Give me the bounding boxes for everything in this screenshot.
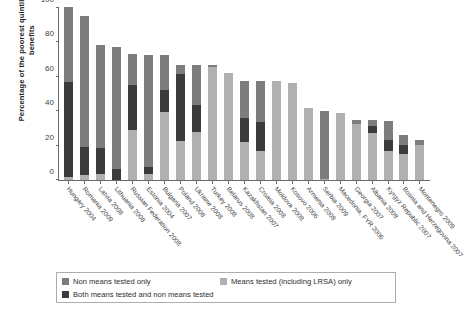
bar[interactable] — [288, 83, 297, 180]
x-label-slot: Latvia 2008 — [92, 185, 108, 270]
bar-slot — [125, 8, 141, 180]
x-tick-slot — [300, 180, 316, 184]
x-tick-mark — [419, 180, 420, 184]
bar[interactable] — [256, 81, 265, 180]
bar[interactable] — [64, 7, 73, 180]
legend-item-non-means-tested: Non means tested only — [62, 277, 151, 286]
legend-swatch — [62, 291, 69, 298]
bar-slot — [332, 8, 348, 180]
bar[interactable] — [336, 113, 345, 180]
bar-slot — [221, 8, 237, 180]
bar-segment — [128, 85, 137, 130]
x-tick-slot — [396, 180, 412, 184]
x-tick-slot — [141, 180, 157, 184]
bar-segment — [176, 74, 185, 141]
x-tick-mark — [276, 180, 277, 184]
bar[interactable] — [384, 121, 393, 180]
x-tick-slot — [157, 180, 173, 184]
x-tick-slot — [221, 180, 237, 184]
bar-segment — [160, 90, 169, 112]
legend-swatch — [220, 278, 227, 285]
bar[interactable] — [272, 81, 281, 180]
x-tick-mark — [148, 180, 149, 184]
bar[interactable] — [240, 81, 249, 180]
x-label-slot: Montenegro 2009 — [412, 185, 428, 270]
x-tick-slot — [316, 180, 332, 184]
x-label-slot: Kyrgyz Republic 2007 — [380, 185, 396, 270]
bar[interactable] — [224, 73, 233, 180]
bar-segment — [399, 145, 408, 155]
x-tick-mark — [403, 180, 404, 184]
bar-slot — [284, 8, 300, 180]
bar-slot — [268, 8, 284, 180]
x-tick-mark — [84, 180, 85, 184]
legend-item-both: Both means tested and non means tested — [62, 290, 214, 299]
x-label-slot: Turkey 2008 — [204, 185, 220, 270]
x-label-slot: Moldova 2008 — [268, 185, 284, 270]
bar-segment — [399, 135, 408, 145]
bar[interactable] — [128, 54, 137, 180]
x-label-slot: Russian Federation 2008 — [124, 185, 140, 270]
x-label-slot: Bulgaria 2007 — [156, 185, 172, 270]
bar-segment — [399, 154, 408, 180]
bar-segment — [368, 126, 377, 134]
bar[interactable] — [208, 65, 217, 180]
bar-segment — [240, 118, 249, 142]
x-label-slot: Hungary 2004 — [60, 185, 76, 270]
bar-segment — [208, 67, 217, 180]
bar-segment — [96, 45, 105, 148]
bar-segment — [384, 121, 393, 140]
bar-segment — [80, 147, 89, 175]
bar-slot — [236, 8, 252, 180]
bar[interactable] — [144, 55, 153, 180]
bar-segment — [384, 151, 393, 180]
bar-slot — [173, 8, 189, 180]
bar-segment — [256, 151, 265, 180]
x-label-slot: Georgia 2007 — [348, 185, 364, 270]
bar-segment — [336, 113, 345, 180]
bar[interactable] — [304, 108, 313, 180]
bar[interactable] — [399, 135, 408, 180]
x-tick-slot — [125, 180, 141, 184]
x-tick-slot — [332, 180, 348, 184]
bar-segment — [128, 54, 137, 85]
bar-segment — [112, 47, 121, 169]
bar-slot — [316, 8, 332, 180]
x-tick-mark — [196, 180, 197, 184]
bar[interactable] — [176, 65, 185, 180]
bar[interactable] — [80, 16, 89, 180]
bar-slot — [189, 8, 205, 180]
bar[interactable] — [112, 47, 121, 180]
bar-segment — [64, 82, 73, 177]
x-tick-slot — [364, 180, 380, 184]
x-label-slot: Ukraine 2008 — [188, 185, 204, 270]
x-label-slot: Albania 2008 — [364, 185, 380, 270]
bar[interactable] — [160, 55, 169, 180]
bar[interactable] — [96, 45, 105, 180]
bar[interactable] — [352, 120, 361, 180]
bar-segment — [320, 111, 329, 178]
bar-segment — [272, 81, 281, 180]
bar-segment — [352, 124, 361, 180]
x-tick-slot — [412, 180, 428, 184]
bar[interactable] — [368, 120, 377, 180]
x-tick-slot — [284, 180, 300, 184]
bar-segment — [80, 16, 89, 147]
bar-slot — [380, 8, 396, 180]
bar[interactable] — [320, 111, 329, 180]
bar[interactable] — [415, 140, 424, 180]
bar-segment — [144, 167, 153, 174]
bar-segment — [64, 7, 73, 82]
bar-segment — [304, 108, 313, 180]
bar-slot — [61, 8, 77, 180]
bar[interactable] — [192, 65, 201, 180]
bar-segment — [96, 148, 105, 174]
legend-item-means-tested: Means tested (including LRSA) only — [220, 277, 352, 286]
bar-slot — [396, 8, 412, 180]
x-tick-mark — [308, 180, 309, 184]
bar-segment — [240, 81, 249, 118]
x-label-slot: Romania 2009 — [76, 185, 92, 270]
x-tick-slot — [380, 180, 396, 184]
x-tick-slot — [109, 180, 125, 184]
y-tick-label: 20 — [14, 132, 59, 141]
